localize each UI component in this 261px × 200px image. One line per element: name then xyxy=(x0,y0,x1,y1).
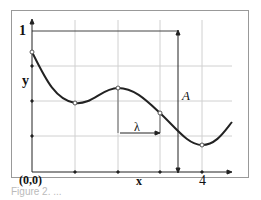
y-max-label: 1 xyxy=(19,24,26,38)
grid xyxy=(32,20,232,172)
figure-caption: Figure 2. ... xyxy=(11,186,62,197)
y-axis-arrow-icon xyxy=(30,19,34,24)
wave-diagram xyxy=(0,0,261,200)
x-axis-arrow-icon xyxy=(227,170,232,174)
y-axis-label: y xyxy=(22,74,29,88)
origin-label: (0,0) xyxy=(19,174,42,186)
x-axis-label: x xyxy=(136,175,142,187)
x-tick-label: 4 xyxy=(199,174,206,188)
amplitude-label: A xyxy=(182,89,190,102)
wavelength-label: λ xyxy=(134,121,140,133)
